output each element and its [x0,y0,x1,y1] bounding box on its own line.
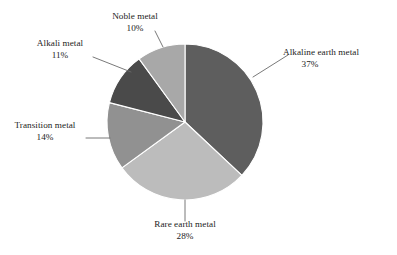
pie-label-percent-rare-earth-metal: 28% [128,231,242,243]
pie-label-text-alkaline-earth-metal: Alkaline earth metal [283,47,359,57]
pie-label-text-alkali-metal: Alkali metal [37,38,83,48]
pie-label-alkali-metal: Alkali metal 11% [28,38,92,61]
pie-label-text-transition-metal: Transition metal [15,120,76,130]
pie-label-noble-metal: Noble metal 10% [102,11,168,34]
leader-line-alkali-metal [93,57,131,72]
pie-label-percent-noble-metal: 10% [102,23,168,35]
pie-label-percent-alkali-metal: 11% [28,50,92,62]
pie-label-rare-earth-metal: Rare earth metal 28% [128,219,242,242]
pie-label-percent-alkaline-earth-metal: 37% [283,59,359,71]
pie-label-text-noble-metal: Noble metal [112,11,158,21]
pie-chart-figure: Alkaline earth metal 37% Rare earth meta… [0,0,397,255]
pie-label-percent-transition-metal: 14% [6,132,84,144]
pie-label-alkaline-earth-metal: Alkaline earth metal 37% [283,47,359,70]
pie-label-transition-metal: Transition metal 14% [6,120,84,143]
pie-slices [107,44,263,200]
pie-label-text-rare-earth-metal: Rare earth metal [154,219,216,229]
